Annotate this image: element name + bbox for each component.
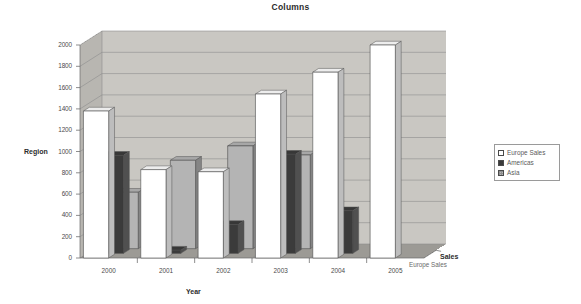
- z-axis-title: Sales: [440, 253, 458, 260]
- y-axis-tick-1400: 1400: [42, 105, 72, 112]
- legend-swatch-americas-icon: [498, 160, 504, 166]
- legend-label-americas: Americas: [507, 159, 534, 167]
- x-axis-tick-2002: 2002: [206, 267, 240, 274]
- z-axis-tick-label: Europe Sales: [409, 261, 447, 268]
- x-axis-tick-2004: 2004: [321, 267, 355, 274]
- legend-swatch-asia-icon: [498, 170, 504, 176]
- x-axis-title: Year: [186, 288, 201, 295]
- chart-root: Columns 02004006008001000120014001600180…: [0, 0, 581, 304]
- y-axis-title: Region: [24, 148, 48, 155]
- y-axis-tick-800: 800: [42, 169, 72, 176]
- y-axis-tick-400: 400: [42, 211, 72, 218]
- y-axis-tick-600: 600: [42, 190, 72, 197]
- chart-legend: Europe Sales Americas Asia: [494, 144, 560, 181]
- legend-item-europe-sales: Europe Sales: [498, 148, 555, 157]
- legend-swatch-europe-sales-icon: [498, 150, 504, 156]
- legend-item-americas: Americas: [498, 158, 555, 167]
- legend-item-asia: Asia: [498, 168, 555, 177]
- y-axis-tick-0: 0: [42, 254, 72, 261]
- legend-label-europe-sales: Europe Sales: [507, 149, 545, 157]
- x-axis-tick-2003: 2003: [264, 267, 298, 274]
- x-axis-tick-2005: 2005: [378, 267, 412, 274]
- y-axis-tick-200: 200: [42, 233, 72, 240]
- y-axis-tick-1200: 1200: [42, 126, 72, 133]
- y-axis-tick-1600: 1600: [42, 84, 72, 91]
- x-axis-tick-2000: 2000: [92, 267, 126, 274]
- y-axis-tick-1800: 1800: [42, 62, 72, 69]
- y-axis-tick-2000: 2000: [42, 41, 72, 48]
- x-axis-tick-2001: 2001: [149, 267, 183, 274]
- legend-label-asia: Asia: [507, 169, 519, 177]
